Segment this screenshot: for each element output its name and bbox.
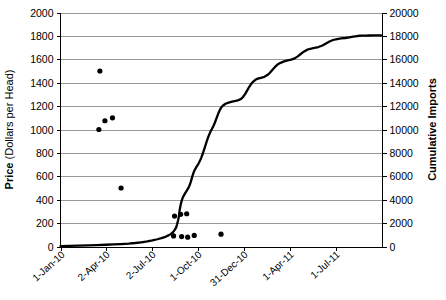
data-point bbox=[110, 115, 115, 120]
secondary-y-tick-label: 2000 bbox=[390, 217, 414, 229]
y-tick-label: 1800 bbox=[30, 30, 54, 42]
secondary-y-tick-label: 14000 bbox=[390, 77, 419, 89]
cumulative-imports-price-chart: 0200400600800100012001400160018002000 02… bbox=[0, 0, 446, 300]
x-tick-label: 31-Dec-10 bbox=[208, 249, 250, 289]
y-tick-label: 2000 bbox=[30, 7, 54, 19]
y-tick-label: 0 bbox=[48, 241, 54, 253]
data-point bbox=[192, 233, 197, 238]
x-axis-tick-labels: 1-Jan-102-Apr-102-Jul-101-Oct-1031-Dec-1… bbox=[30, 249, 342, 289]
y-tick-label: 1000 bbox=[30, 124, 54, 136]
axis-titles: Price (Dollars per Head)Cumulative Impor… bbox=[3, 70, 438, 190]
y-tick-label: 800 bbox=[36, 147, 54, 159]
y-tick-label: 200 bbox=[36, 217, 54, 229]
y-tick-label: 1600 bbox=[30, 53, 54, 65]
x-tick-label: 1-Jan-10 bbox=[30, 249, 67, 284]
secondary-y-axis-tick-labels: 0200040006000800010000120001400016000180… bbox=[390, 7, 419, 253]
y-axis-title-bold: Price bbox=[3, 163, 15, 190]
secondary-y-tick-label: 20000 bbox=[390, 7, 419, 19]
secondary-y-tick-label: 18000 bbox=[390, 30, 419, 42]
data-point bbox=[178, 212, 183, 217]
data-point bbox=[185, 235, 190, 240]
chart-container: 0200400600800100012001400160018002000 02… bbox=[0, 0, 446, 300]
secondary-y-tick-label: 12000 bbox=[390, 100, 419, 112]
data-series bbox=[61, 35, 382, 246]
secondary-y-tick-label: 0 bbox=[390, 241, 396, 253]
tick-marks bbox=[57, 14, 387, 251]
data-point bbox=[97, 68, 102, 73]
y-tick-label: 600 bbox=[36, 170, 54, 182]
secondary-y-tick-label: 6000 bbox=[390, 170, 414, 182]
series-scatter-price bbox=[96, 68, 223, 239]
gridlines bbox=[61, 14, 383, 248]
y-axis-tick-labels: 0200400600800100012001400160018002000 bbox=[30, 7, 54, 253]
series-line-cumulative-imports bbox=[61, 35, 382, 246]
x-tick-label: 1-Oct-10 bbox=[168, 249, 205, 283]
y-tick-label: 1400 bbox=[30, 77, 54, 89]
y-tick-label: 1200 bbox=[30, 100, 54, 112]
secondary-y-tick-label: 8000 bbox=[390, 147, 414, 159]
data-point bbox=[179, 234, 184, 239]
secondary-y-tick-label: 10000 bbox=[390, 124, 419, 136]
data-point bbox=[171, 233, 176, 238]
x-tick-label: 2-Apr-10 bbox=[76, 249, 113, 284]
x-tick-label: 2-Jul-10 bbox=[124, 249, 159, 282]
data-point bbox=[118, 185, 123, 190]
axes bbox=[61, 13, 383, 248]
data-point bbox=[218, 232, 223, 237]
secondary-y-tick-label: 4000 bbox=[390, 194, 414, 206]
secondary-y-tick-label: 16000 bbox=[390, 53, 419, 65]
data-point bbox=[184, 211, 189, 216]
x-tick-label: 1-Apr-11 bbox=[260, 249, 296, 283]
y-axis-title: Price (Dollars per Head) bbox=[3, 70, 15, 190]
data-point bbox=[96, 127, 101, 132]
data-point bbox=[172, 213, 177, 218]
y-tick-label: 400 bbox=[36, 194, 54, 206]
data-point bbox=[102, 118, 107, 123]
y-axis-title-rest: (Dollars per Head) bbox=[3, 70, 15, 163]
secondary-y-axis-title: Cumulative Imports bbox=[426, 78, 438, 181]
x-tick-label: 1-Jul-11 bbox=[308, 249, 342, 281]
